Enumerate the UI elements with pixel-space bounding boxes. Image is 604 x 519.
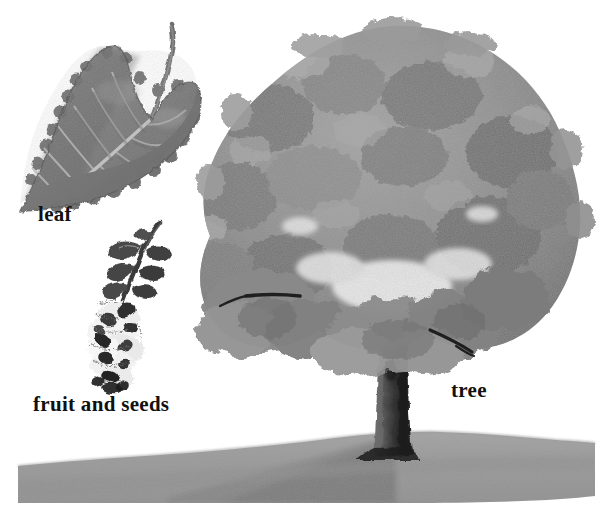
botanical-plate: leaf fruit and seeds tree	[0, 0, 604, 519]
illustration-canvas	[0, 0, 604, 519]
fruit-and-seeds-figure	[87, 222, 172, 395]
tree-figure	[190, 10, 600, 460]
label-fruit-and-seeds: fruit and seeds	[33, 392, 169, 417]
tree-canopy	[190, 10, 600, 376]
ground-figure	[10, 425, 604, 510]
leaf-figure	[10, 24, 220, 220]
label-tree: tree	[451, 378, 487, 403]
label-leaf: leaf	[38, 202, 72, 227]
